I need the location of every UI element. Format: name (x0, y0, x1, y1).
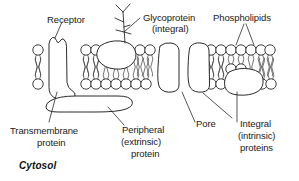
membrane-diagram: Receptor Glycoprotein (integral) Phospho… (0, 0, 299, 181)
phospholipid (33, 45, 43, 76)
label-pore: Pore (196, 118, 216, 130)
label-transmembrane-line1: Transmembrane (10, 125, 78, 137)
label-cytosol: Cytosol (19, 160, 56, 171)
phospholipid (91, 58, 101, 89)
phospholipid (145, 45, 155, 76)
phospholipid (33, 79, 43, 89)
integral-protein-lower-right (225, 68, 264, 95)
label-glycoprotein-line2: (integral) (152, 23, 189, 35)
label-peripheral-line3: protein (131, 148, 159, 160)
leader-phospholipids-left (236, 24, 244, 45)
label-transmembrane-line2: protein (37, 137, 65, 149)
phospholipid (81, 79, 91, 89)
glycoprotein (97, 41, 136, 69)
leader-pore (182, 92, 195, 122)
carbohydrate-chain (115, 4, 131, 43)
integral-protein-pore-left (158, 43, 179, 92)
label-integral-line1: Integral (240, 118, 271, 130)
transmembrane-protein (49, 37, 75, 100)
label-glycoprotein-line1: Glycoprotein (143, 12, 195, 24)
leader-integral-secondary (203, 93, 232, 118)
leader-phospholipids-right (246, 24, 254, 45)
label-phospholipids: Phospholipids (213, 12, 271, 24)
label-integral-line2: (intrinsic) (238, 130, 275, 142)
label-peripheral-line2: (extrinsic) (121, 136, 161, 148)
label-integral-line3: proteins (240, 142, 273, 154)
leader-glycoprotein (124, 18, 140, 32)
peripheral-protein (46, 96, 132, 112)
label-peripheral-line1: Peripheral (122, 124, 164, 136)
integral-protein-pore-right (188, 43, 210, 92)
label-receptor: Receptor (47, 14, 85, 26)
phospholipid (81, 45, 91, 76)
phospholipid (216, 45, 226, 76)
